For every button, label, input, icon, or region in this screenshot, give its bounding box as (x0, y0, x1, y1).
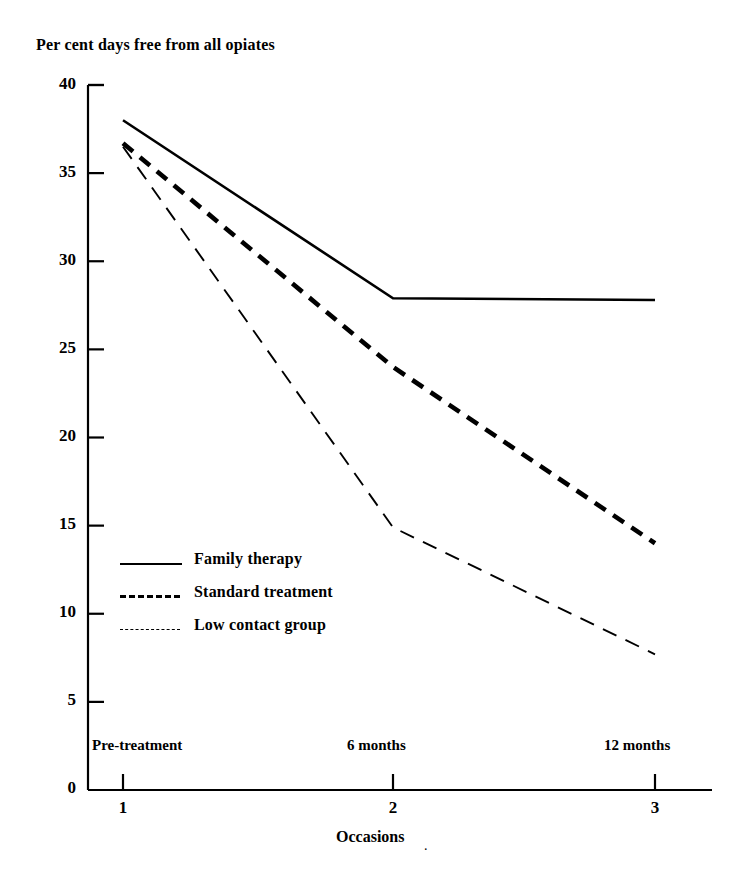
chart-figure: Per cent days free from all opiates 40 3… (0, 0, 745, 891)
series-line-low-contact-group (123, 147, 655, 655)
plot-area (0, 0, 745, 891)
data-series-lines (123, 120, 655, 654)
series-line-standard-treatment (123, 143, 655, 543)
series-line-family-therapy (123, 120, 655, 300)
